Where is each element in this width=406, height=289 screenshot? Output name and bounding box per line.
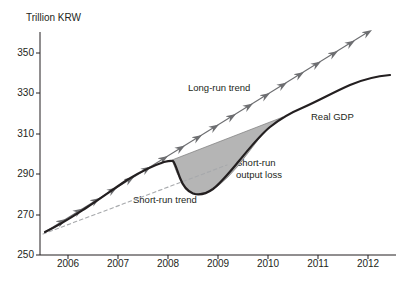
shaded-output-loss-region xyxy=(172,117,283,194)
y-axis-ticks xyxy=(36,53,40,255)
chart-plot-area xyxy=(0,0,406,289)
x-axis-ticks xyxy=(68,255,368,259)
chart-container: Trillion KRW 350 330 310 290 270 250 200… xyxy=(0,0,406,289)
